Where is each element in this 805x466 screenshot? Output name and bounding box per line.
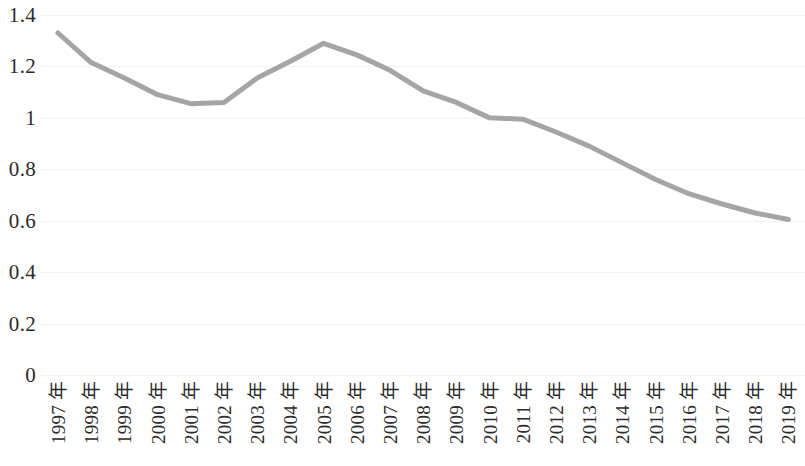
- x-tick: 2005 年: [311, 381, 337, 466]
- x-tick: 1999 年: [111, 381, 137, 466]
- x-tick: 2007 年: [377, 381, 403, 466]
- y-tick-label: 1: [25, 107, 36, 128]
- x-tick-label: 1997 年: [49, 381, 68, 444]
- x-tick: 2012 年: [543, 381, 569, 466]
- x-tick-label: 2016 年: [679, 381, 698, 444]
- x-tick: 2006 年: [344, 381, 370, 466]
- x-tick-label: 2012 年: [547, 381, 566, 444]
- x-tick: 2008 年: [410, 381, 436, 466]
- y-tick-label: 1.2: [9, 56, 36, 77]
- y-tick-label: 0.4: [9, 262, 36, 283]
- y-tick-label: 1.4: [9, 5, 36, 26]
- x-tick-label: 1999 年: [115, 381, 134, 444]
- x-tick-label: 2014 年: [613, 381, 632, 444]
- x-tick-label: 2000 年: [148, 381, 167, 444]
- x-tick: 2004 年: [277, 381, 303, 466]
- y-tick-label: 0: [25, 365, 36, 386]
- x-tick: 2019 年: [775, 381, 801, 466]
- x-tick: 2016 年: [676, 381, 702, 466]
- y-tick-label: 0.6: [9, 210, 36, 231]
- x-tick: 1997 年: [45, 381, 71, 466]
- y-tick-label: 0.2: [9, 313, 36, 334]
- series-line: [58, 33, 788, 219]
- x-tick: 2002 年: [211, 381, 237, 466]
- x-tick-label: 2003 年: [248, 381, 267, 444]
- x-tick-label: 2008 年: [414, 381, 433, 444]
- x-tick: 2000 年: [145, 381, 171, 466]
- x-tick-label: 2002 年: [215, 381, 234, 444]
- x-tick-label: 2006 年: [347, 381, 366, 444]
- x-tick: 2018 年: [742, 381, 768, 466]
- x-tick: 2009 年: [443, 381, 469, 466]
- x-tick: 2003 年: [244, 381, 270, 466]
- x-tick-label: 2004 年: [281, 381, 300, 444]
- x-tick-label: 1998 年: [82, 381, 101, 444]
- x-tick: 2010 年: [477, 381, 503, 466]
- x-tick-label: 2005 年: [314, 381, 333, 444]
- x-tick-label: 2018 年: [746, 381, 765, 444]
- x-tick: 2014 年: [609, 381, 635, 466]
- x-tick-label: 2013 年: [580, 381, 599, 444]
- x-tick-label: 2015 年: [646, 381, 665, 444]
- x-tick-label: 2019 年: [779, 381, 798, 444]
- x-tick-label: 2017 年: [713, 381, 732, 444]
- x-axis: 1997 年1998 年1999 年2000 年2001 年2002 年2003…: [41, 381, 805, 466]
- series-line-layer: [41, 15, 805, 375]
- x-tick-label: 2009 年: [447, 381, 466, 444]
- x-tick-label: 2011 年: [513, 381, 532, 443]
- y-axis: 00.20.40.60.811.21.4: [0, 0, 36, 391]
- plot-area: [41, 15, 805, 375]
- x-tick: 2013 年: [576, 381, 602, 466]
- x-tick: 2017 年: [709, 381, 735, 466]
- x-tick: 2001 年: [178, 381, 204, 466]
- line-chart: 00.20.40.60.811.21.4 1997 年1998 年1999 年2…: [0, 0, 805, 466]
- x-tick: 2011 年: [510, 381, 536, 466]
- gridline: [41, 375, 805, 376]
- x-tick: 2015 年: [643, 381, 669, 466]
- x-tick: 1998 年: [78, 381, 104, 466]
- y-tick-label: 0.8: [9, 159, 36, 180]
- x-tick-label: 2007 年: [381, 381, 400, 444]
- x-tick-label: 2010 年: [480, 381, 499, 444]
- x-tick-label: 2001 年: [181, 381, 200, 444]
